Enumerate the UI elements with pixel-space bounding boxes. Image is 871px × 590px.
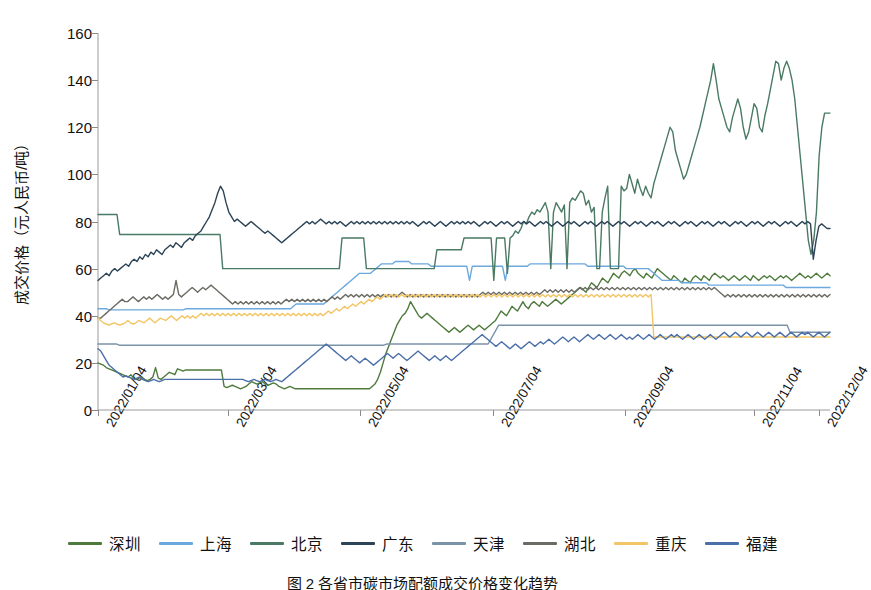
legend-item[interactable]: 广东 — [341, 532, 414, 554]
legend-swatch-icon — [432, 542, 466, 545]
legend-item[interactable]: 上海 — [159, 532, 232, 554]
series-line-5 — [98, 280, 830, 318]
plot-canvas — [0, 0, 845, 525]
legend-swatch-icon — [159, 542, 193, 545]
legend-item[interactable]: 深圳 — [68, 532, 141, 554]
legend-swatch-icon — [705, 542, 739, 545]
legend-swatch-icon — [614, 542, 648, 545]
legend-label: 天津 — [473, 532, 505, 554]
series-line-6 — [98, 295, 830, 337]
legend-label: 福建 — [746, 532, 778, 554]
legend-swatch-icon — [68, 542, 102, 545]
figure-caption: 图 2 各省市碳市场配额成交价格变化趋势 — [0, 572, 845, 590]
legend-label: 上海 — [200, 532, 232, 554]
legend-label: 北京 — [291, 532, 323, 554]
legend-label: 湖北 — [564, 532, 596, 554]
line-chart: 成交价格（元人民币/吨） 020406080100120140160 2022/… — [0, 0, 845, 525]
legend-label: 深圳 — [109, 532, 141, 554]
legend-item[interactable]: 天津 — [432, 532, 505, 554]
series-line-1 — [98, 262, 830, 310]
legend-swatch-icon — [250, 542, 284, 545]
legend-item[interactable]: 福建 — [705, 532, 778, 554]
legend-item[interactable]: 北京 — [250, 532, 323, 554]
legend-swatch-icon — [341, 542, 375, 545]
legend-label: 广东 — [382, 532, 414, 554]
legend-item[interactable]: 重庆 — [614, 532, 687, 554]
legend-label: 重庆 — [655, 532, 687, 554]
series-line-0 — [98, 269, 830, 389]
series-line-2 — [98, 61, 830, 280]
series-line-7 — [98, 332, 830, 381]
chart-legend: 深圳上海北京广东天津湖北重庆福建 — [0, 528, 845, 558]
legend-item[interactable]: 湖北 — [523, 532, 596, 554]
legend-swatch-icon — [523, 542, 557, 545]
